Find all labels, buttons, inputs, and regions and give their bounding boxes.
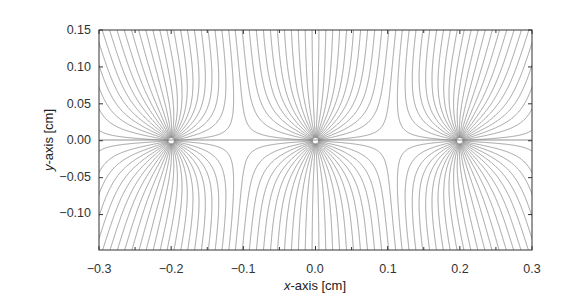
y-tick-label: −0.05 xyxy=(59,170,91,184)
x-tick-label: −0.2 xyxy=(159,262,184,276)
y-tick-label: −0.10 xyxy=(59,206,91,220)
field-lines xyxy=(85,23,547,259)
x-axis-label-text: -axis [cm] xyxy=(290,278,346,293)
field-line-figure: −0.3 −0.2 −0.1 0.0 0.1 0.2 0.3 0.15 0.10… xyxy=(0,0,570,305)
plot-area xyxy=(0,0,570,305)
y-tick-label: 0.00 xyxy=(67,133,91,147)
x-axis-label: x-axis [cm] xyxy=(284,278,346,293)
y-tick-label: 0.15 xyxy=(67,23,91,37)
x-tick-label: −0.1 xyxy=(231,262,256,276)
y-axis-label: y-axis [cm] xyxy=(41,109,56,171)
x-tick-label: 0.2 xyxy=(451,262,468,276)
x-tick-label: −0.3 xyxy=(87,262,112,276)
y-tick-label: 0.05 xyxy=(67,97,91,111)
y-axis-label-text: -axis [cm] xyxy=(41,109,56,165)
x-tick-label: 0.3 xyxy=(523,262,540,276)
y-axis-label-var: y xyxy=(41,165,56,172)
x-tick-label: 0.1 xyxy=(379,262,396,276)
x-tick-label: 0.0 xyxy=(306,262,323,276)
y-tick-label: 0.10 xyxy=(67,60,91,74)
